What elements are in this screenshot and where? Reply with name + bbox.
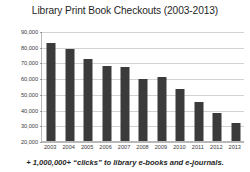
bar-slot	[227, 32, 245, 141]
bar-slot	[116, 32, 134, 141]
bar-slot	[190, 32, 208, 141]
x-axis-tick-label: 2013	[229, 144, 241, 150]
y-axis-tick-mark	[40, 111, 42, 112]
bar-slot	[153, 32, 171, 141]
y-axis-tick-label: 50,000	[0, 92, 38, 98]
bar-slot	[79, 32, 97, 141]
bar[interactable]	[194, 102, 203, 141]
x-axis-tick-label: 2012	[210, 144, 222, 150]
y-axis-tick-label: 20,000	[0, 139, 38, 145]
y-axis-tick-mark	[40, 48, 42, 49]
bar-slot	[208, 32, 226, 141]
bar[interactable]	[65, 49, 74, 141]
chart-title: Library Print Book Checkouts (2003-2013)	[0, 5, 250, 16]
y-axis-tick-label: 70,000	[0, 60, 38, 66]
y-axis-tick-mark	[40, 126, 42, 127]
bar-slot	[134, 32, 152, 141]
x-axis-tick-label: 2009	[155, 144, 167, 150]
y-axis-tick-label: 40,000	[0, 108, 38, 114]
chart-footnote: + 1,000,000+ “clicks” to library e-books…	[0, 158, 250, 167]
bar-slot	[171, 32, 189, 141]
x-axis-tick-label: 2010	[173, 144, 185, 150]
bar-slot	[97, 32, 115, 141]
bar[interactable]	[84, 59, 93, 141]
y-axis-tick-label: 30,000	[0, 123, 38, 129]
y-axis-tick-mark	[40, 79, 42, 80]
x-axis-tick-label: 2003	[44, 144, 56, 150]
plot-area	[41, 32, 244, 142]
bar-slot	[42, 32, 60, 141]
x-axis-tick-label: 2005	[81, 144, 93, 150]
bar[interactable]	[176, 89, 185, 141]
x-axis-tick-label: 2008	[136, 144, 148, 150]
bar[interactable]	[231, 123, 240, 141]
x-axis-tick-label: 2011	[192, 144, 204, 150]
x-axis-tick-label: 2004	[62, 144, 74, 150]
y-axis-tick-mark	[40, 32, 42, 33]
y-axis-tick-label: 80,000	[0, 45, 38, 51]
y-axis-tick-mark	[40, 142, 42, 143]
y-axis-tick-mark	[40, 95, 42, 96]
bar[interactable]	[139, 79, 148, 141]
y-axis-tick-label: 90,000	[0, 29, 38, 35]
chart-card: Library Print Book Checkouts (2003-2013)…	[0, 0, 250, 172]
bar[interactable]	[47, 43, 56, 141]
bar[interactable]	[157, 77, 166, 141]
gridline	[42, 142, 244, 143]
bar[interactable]	[102, 66, 111, 141]
y-axis-tick-mark	[40, 63, 42, 64]
bar[interactable]	[121, 67, 130, 141]
bars-group	[42, 32, 244, 141]
bar-slot	[60, 32, 78, 141]
bar[interactable]	[213, 113, 222, 141]
x-axis-tick-label: 2006	[99, 144, 111, 150]
x-axis-tick-label: 2007	[118, 144, 130, 150]
y-axis-tick-label: 60,000	[0, 76, 38, 82]
